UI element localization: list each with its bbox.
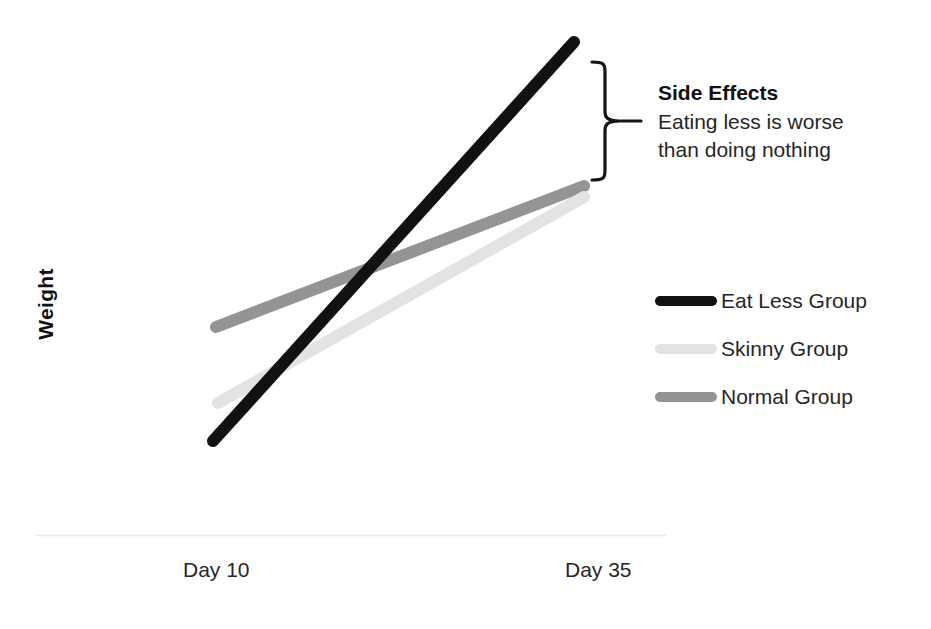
- series-line-eat-less-group: [213, 42, 574, 441]
- chart-canvas: [0, 0, 680, 629]
- annotation-body-line-1: Eating less is worse: [658, 108, 920, 136]
- annotation-body-line-2: than doing nothing: [658, 136, 920, 164]
- x-axis-tick-label-day-35: Day 35: [565, 558, 632, 582]
- legend-label-eat-less-group: Eat Less Group: [721, 289, 867, 313]
- legend-label-normal-group: Normal Group: [721, 385, 853, 409]
- legend-item-skinny-group: Skinny Group: [655, 325, 925, 373]
- chart-screenshot: Weight Day 10 Day 35 Side Effects Eating…: [0, 0, 931, 629]
- annotation-block: Side Effects Eating less is worse than d…: [658, 80, 920, 164]
- plot-area: Weight Day 10 Day 35: [0, 0, 680, 629]
- x-axis-tick-label-day-10: Day 10: [183, 558, 250, 582]
- y-axis-title: Weight: [34, 244, 58, 364]
- legend-label-skinny-group: Skinny Group: [721, 337, 848, 361]
- brace-bracket-icon: [592, 62, 617, 180]
- chart-legend: Eat Less Group Skinny Group Normal Group: [655, 277, 925, 421]
- legend-item-normal-group: Normal Group: [655, 373, 925, 421]
- annotation-title: Side Effects: [658, 80, 920, 106]
- legend-swatch-icon-skinny-group: [655, 344, 717, 354]
- legend-swatch-icon-normal-group: [655, 392, 717, 402]
- legend-item-eat-less-group: Eat Less Group: [655, 277, 925, 325]
- legend-swatch-icon-eat-less-group: [655, 296, 717, 306]
